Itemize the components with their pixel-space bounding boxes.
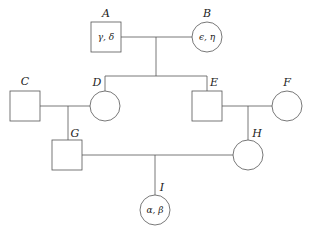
individual-label: E (209, 76, 218, 89)
individual-label: F (282, 76, 291, 89)
individual-label: D (92, 76, 102, 89)
genotype-label: γ, δ (98, 32, 115, 42)
individual-b: B ϵ, η (192, 7, 222, 52)
pedigree-diagram: A γ, δ B ϵ, η C D E F G H I α, β (0, 0, 312, 234)
male-square (52, 140, 82, 170)
genotype-label: ϵ, η (199, 32, 216, 42)
individual-label: G (71, 127, 80, 140)
individual-label: I (159, 181, 165, 194)
individual-label: B (202, 7, 211, 20)
male-square (192, 91, 222, 121)
female-circle (233, 140, 263, 170)
female-circle (272, 91, 302, 121)
individual-a: A γ, δ (91, 7, 121, 52)
female-circle (90, 91, 120, 121)
individual-c: C (10, 75, 40, 121)
individual-label: A (101, 7, 110, 20)
individual-g: G (52, 127, 82, 170)
individual-f: F (272, 76, 302, 121)
genotype-label: α, β (146, 205, 163, 215)
individual-label: H (251, 127, 262, 140)
individual-label: C (21, 75, 30, 88)
male-square (10, 91, 40, 121)
